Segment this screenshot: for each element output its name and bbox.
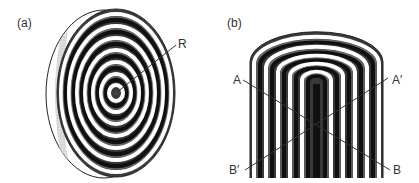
panel-a-disk	[46, 9, 176, 178]
line-label-a-prime: A′	[392, 74, 402, 86]
line-label-b: B	[393, 164, 401, 176]
panel-b-label: (b)	[227, 17, 242, 29]
panel-b-u-layers	[243, 28, 390, 180]
figure-canvas	[0, 0, 419, 183]
line-label-a: A	[233, 74, 241, 86]
radius-label: R	[178, 38, 187, 50]
nested-u-bands	[248, 28, 388, 180]
panel-a-label: (a)	[17, 17, 32, 29]
line-label-b-prime: B′	[229, 164, 239, 176]
